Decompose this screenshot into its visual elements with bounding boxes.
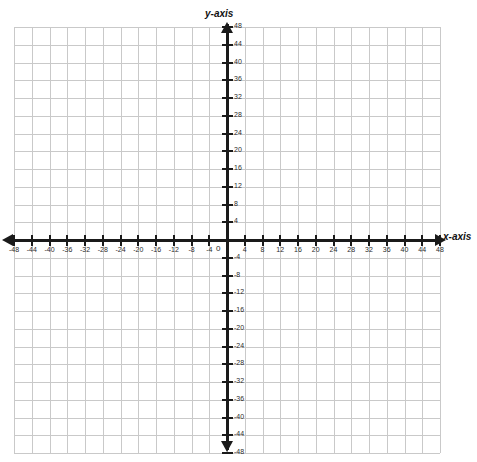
x-axis-tick <box>191 235 193 246</box>
y-axis-tick <box>222 26 233 28</box>
y-axis-tick-label: -20 <box>234 324 254 332</box>
y-axis-tick-label: -12 <box>234 288 254 296</box>
y-axis-tick-label: -40 <box>234 413 254 421</box>
x-axis-tick <box>421 235 423 246</box>
y-axis-tick <box>222 310 233 312</box>
x-axis-tick <box>31 235 33 246</box>
x-axis-title: x-axis <box>443 231 471 242</box>
y-axis-tick <box>222 381 233 383</box>
y-axis-tick-label: 48 <box>234 22 254 30</box>
y-axis-tick-label: -28 <box>234 359 254 367</box>
y-axis-tick-label: 16 <box>234 164 254 172</box>
x-axis-tick <box>279 235 281 246</box>
y-axis-tick-label: 40 <box>234 58 254 66</box>
y-axis-line <box>226 24 229 450</box>
x-axis-tick <box>120 235 122 246</box>
y-axis-tick <box>222 452 233 454</box>
x-axis-tick-label: 48 <box>428 246 452 254</box>
y-axis-tick-label: 4 <box>234 217 254 225</box>
y-axis-tick-label: 44 <box>234 40 254 48</box>
x-axis-tick <box>102 235 104 246</box>
x-axis-tick <box>49 235 51 246</box>
x-axis-tick <box>137 235 139 246</box>
x-axis-tick <box>333 235 335 246</box>
x-axis-tick <box>439 235 441 246</box>
x-axis-tick <box>173 235 175 246</box>
y-axis-tick <box>222 417 233 419</box>
y-axis-tick <box>222 221 233 223</box>
x-axis-tick <box>368 235 370 246</box>
y-axis-tick-label: 28 <box>234 111 254 119</box>
origin-label: 0 <box>216 244 220 253</box>
y-axis-tick <box>222 275 233 277</box>
x-axis-tick <box>386 235 388 246</box>
y-axis-tick <box>222 292 233 294</box>
x-axis-tick <box>404 235 406 246</box>
y-axis-title: y-axis <box>205 8 233 19</box>
x-axis-tick <box>84 235 86 246</box>
y-axis-tick <box>222 168 233 170</box>
y-axis-tick-label: -24 <box>234 342 254 350</box>
x-axis-tick <box>262 235 264 246</box>
y-axis-tick <box>222 44 233 46</box>
y-axis-tick <box>222 434 233 436</box>
y-axis-tick-label: -36 <box>234 395 254 403</box>
arrow-down-icon <box>221 441 233 452</box>
x-axis-tick <box>297 235 299 246</box>
y-axis-tick <box>222 79 233 81</box>
x-axis-tick <box>315 235 317 246</box>
y-axis-tick-label: -32 <box>234 377 254 385</box>
y-axis-tick-label: 32 <box>234 93 254 101</box>
y-axis-tick <box>222 115 233 117</box>
y-axis-tick <box>222 204 233 206</box>
x-axis-tick <box>13 235 15 246</box>
y-axis-tick-label: -16 <box>234 306 254 314</box>
y-axis-tick-label: -4 <box>234 253 254 261</box>
y-axis-tick-label: 20 <box>234 146 254 154</box>
y-axis-tick-label: -8 <box>234 271 254 279</box>
y-axis-tick <box>222 399 233 401</box>
y-axis-tick <box>222 257 233 259</box>
x-axis-tick <box>155 235 157 246</box>
y-axis-tick <box>222 150 233 152</box>
x-axis-tick <box>350 235 352 246</box>
y-axis-tick-label: 12 <box>234 182 254 190</box>
y-axis-tick <box>222 133 233 135</box>
x-axis-line <box>9 239 436 242</box>
y-axis-tick <box>222 97 233 99</box>
arrow-left-icon <box>2 234 13 246</box>
y-axis-tick-label: 8 <box>234 200 254 208</box>
coordinate-plane: -48-44-40-36-32-28-24-20-16-12-8-4481216… <box>0 0 477 462</box>
y-axis-tick <box>222 186 233 188</box>
y-axis-tick-label: -48 <box>234 448 254 456</box>
y-axis-tick-label: -44 <box>234 430 254 438</box>
y-axis-tick <box>222 328 233 330</box>
y-axis-tick <box>222 346 233 348</box>
x-axis-tick <box>208 235 210 246</box>
y-axis-tick <box>222 62 233 64</box>
y-axis-tick-label: 24 <box>234 129 254 137</box>
x-axis-tick <box>66 235 68 246</box>
x-axis-tick <box>244 235 246 246</box>
y-axis-tick <box>222 363 233 365</box>
y-axis-tick-label: 36 <box>234 75 254 83</box>
